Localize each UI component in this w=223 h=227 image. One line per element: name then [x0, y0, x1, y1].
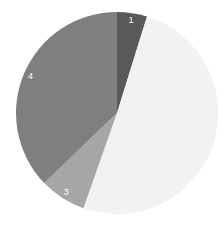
- pie-chart: 134: [0, 0, 223, 227]
- slice-label-3: 3: [64, 187, 69, 197]
- slice-label-4: 4: [28, 71, 33, 81]
- slice-label-1: 1: [129, 15, 134, 25]
